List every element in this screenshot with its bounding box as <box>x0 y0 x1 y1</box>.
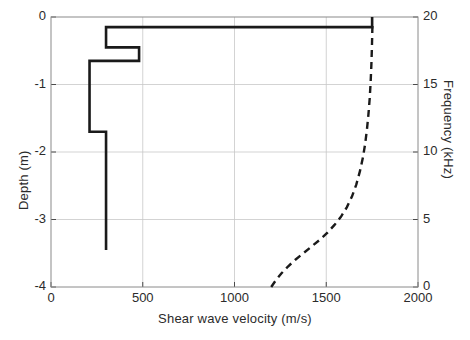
chart-figure: Shear wave velocity (m/s) Depth (m) Freq… <box>0 0 470 340</box>
y-tick-label-left: -3 <box>16 211 46 226</box>
y-axis-title-left: Depth (m) <box>16 150 31 210</box>
x-tick-label: 0 <box>47 290 54 305</box>
x-axis-title: Shear wave velocity (m/s) <box>0 311 470 326</box>
y-tick-label-left: -4 <box>16 278 46 293</box>
x-tick-label: 1000 <box>220 290 249 305</box>
y-tick-label-right: 15 <box>423 76 437 91</box>
y-tick-label-right: 20 <box>423 8 437 23</box>
y-tick-label-right: 5 <box>423 211 430 226</box>
y-tick-label-left: 0 <box>16 8 46 23</box>
x-tick-label: 1500 <box>312 290 341 305</box>
y-tick-label-left: -2 <box>16 143 46 158</box>
y-tick-label-right: 0 <box>423 278 430 293</box>
plot-background <box>0 0 470 340</box>
y-tick-label-right: 10 <box>423 143 437 158</box>
x-tick-label: 500 <box>132 290 154 305</box>
y-axis-title-right: Frequency (kHz) <box>441 80 456 179</box>
y-tick-label-left: -1 <box>16 76 46 91</box>
shear-wave-velocity-plot <box>0 0 470 340</box>
